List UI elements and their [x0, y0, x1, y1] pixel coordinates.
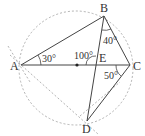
angle-arc-a: [38, 55, 41, 65]
geometry-diagram: A B C D E 30° 100° 40° 50°: [0, 0, 145, 136]
segment-bd: [87, 16, 104, 121]
label-point-e: E: [99, 51, 106, 65]
angle-arc-b: [102, 29, 111, 30]
angle-label-abd: 40°: [103, 35, 117, 46]
angle-label-acd: 50°: [104, 70, 118, 81]
label-point-c: C: [133, 59, 141, 73]
center-point: [75, 63, 78, 66]
label-point-d: D: [82, 122, 91, 136]
label-point-b: B: [100, 1, 108, 15]
label-point-a: A: [10, 59, 19, 73]
angle-label-bac: 30°: [42, 53, 56, 64]
angle-label-aeb: 100°: [74, 50, 93, 61]
